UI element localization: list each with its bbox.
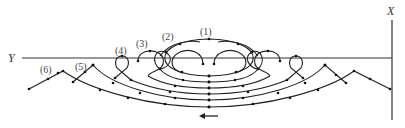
curve-label-1: (1) — [200, 26, 212, 38]
diagram-canvas: Y X — [0, 0, 405, 128]
curve-label-6: (6) — [40, 64, 52, 76]
curve-label-3: (3) — [136, 38, 148, 50]
left-arrow-icon — [199, 113, 218, 119]
curve-label-2: (2) — [162, 31, 174, 43]
trajectory-diagram: Y X — [0, 0, 405, 128]
y-axis-label: Y — [8, 51, 16, 65]
x-axis-label: X — [386, 4, 395, 18]
center-dots — [208, 75, 211, 109]
curve-label-4: (4) — [115, 45, 127, 57]
curve-label-5: (5) — [75, 61, 87, 73]
